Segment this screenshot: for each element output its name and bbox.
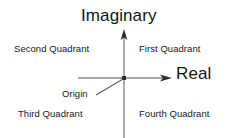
quadrant-label-first: First Quadrant	[139, 44, 200, 54]
origin-leader-line	[96, 79, 123, 95]
quadrant-label-second: Second Quadrant	[14, 44, 89, 54]
imaginary-axis-label: Imaginary	[81, 7, 157, 24]
quadrant-label-third: Third Quadrant	[18, 109, 83, 119]
origin-label: Origin	[62, 89, 88, 99]
real-axis-label: Real	[176, 65, 211, 82]
complex-plane-diagram: Imaginary Real Second Quadrant First Qua…	[0, 0, 230, 138]
quadrant-label-fourth: Fourth Quadrant	[139, 109, 209, 119]
